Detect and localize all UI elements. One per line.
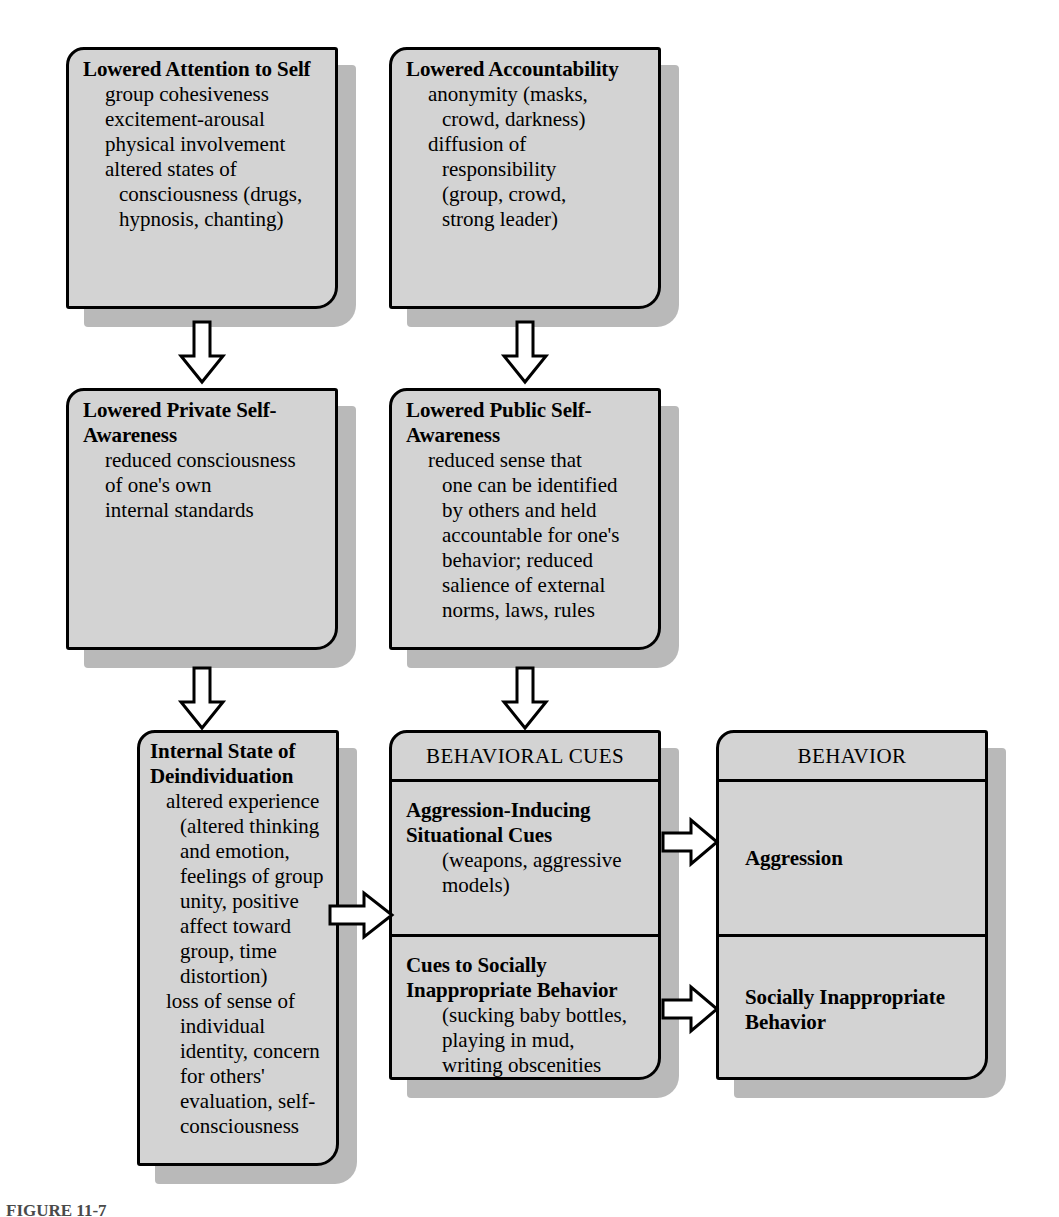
- node-item: behavior; reduced: [428, 548, 648, 573]
- cell-item: models): [428, 873, 648, 898]
- node-item: for others': [166, 1064, 332, 1089]
- node-item: (group, crowd,: [428, 182, 648, 207]
- arrow-accountability-to-public-icon: [503, 322, 547, 384]
- node-title: Lowered Private Self-Awareness: [83, 398, 325, 448]
- arrow-social-cues-to-social-behavior-icon: [663, 986, 719, 1034]
- deindividuation-flowchart: Lowered Attention to Self group cohesive…: [0, 0, 1059, 1217]
- node-face: Lowered Attention to Self group cohesive…: [66, 47, 338, 309]
- arrow-aggression-cues-to-aggression-icon: [663, 819, 719, 867]
- node-face: Lowered Private Self-Awareness reduced c…: [66, 388, 338, 650]
- node-item: accountable for one's: [428, 523, 648, 548]
- node-item: affect toward: [166, 914, 332, 939]
- cell-item: writing obscenities: [428, 1053, 648, 1078]
- node-lowered-private-self-awareness: Lowered Private Self-Awareness reduced c…: [66, 388, 338, 650]
- node-item: norms, laws, rules: [428, 598, 648, 623]
- node-item: one can be identified: [428, 473, 648, 498]
- node-item: reduced consciousness: [83, 448, 325, 473]
- node-internal-state-of-deindividuation: Internal State of Deindividuation altere…: [137, 730, 339, 1166]
- node-item: group cohesiveness: [83, 82, 325, 107]
- node-item: internal standards: [83, 498, 325, 523]
- node-item: strong leader): [428, 207, 648, 232]
- node-lowered-attention-to-self: Lowered Attention to Self group cohesive…: [66, 47, 338, 309]
- node-face: Lowered Accountability anonymity (masks,…: [389, 47, 661, 309]
- cell-title: Socially Inappropriate Behavior: [745, 985, 975, 1035]
- node-item: and emotion,: [166, 839, 332, 864]
- node-title: Lowered Attention to Self: [83, 57, 325, 82]
- behavioral-cues-cell-aggression: Aggression-Inducing Situational Cues (we…: [392, 782, 658, 934]
- node-lowered-public-self-awareness: Lowered Public Self-Awareness reduced se…: [389, 388, 661, 650]
- node-face: BEHAVIOR Aggression Socially Inappropria…: [716, 730, 988, 1080]
- node-lowered-accountability: Lowered Accountability anonymity (masks,…: [389, 47, 661, 309]
- node-item: reduced sense that: [406, 448, 648, 473]
- node-text: Internal State of Deindividuation altere…: [140, 733, 336, 1139]
- behavioral-cues-cell-social: Cues to Socially Inappropriate Behavior …: [392, 934, 658, 1080]
- figure-caption: FIGURE 11-7: [6, 1201, 107, 1217]
- cell-item: (sucking baby bottles,: [428, 1003, 648, 1028]
- node-item: altered states of: [83, 157, 325, 182]
- node-item: hypnosis, chanting): [105, 207, 325, 232]
- node-item: identity, concern: [166, 1039, 332, 1064]
- arrow-public-to-behavioral-cues-icon: [503, 668, 547, 730]
- arrow-internal-state-to-behavioral-cues-icon: [330, 892, 394, 940]
- node-item: excitement-arousal: [83, 107, 325, 132]
- cell-title: Aggression-Inducing Situational Cues: [406, 798, 648, 848]
- node-text: Lowered Public Self-Awareness reduced se…: [392, 391, 658, 623]
- node-face: Internal State of Deindividuation altere…: [137, 730, 339, 1166]
- behavior-banner: BEHAVIOR: [719, 733, 985, 782]
- node-item: group, time: [166, 939, 332, 964]
- node-item: consciousness: [166, 1114, 332, 1139]
- node-behavior: BEHAVIOR Aggression Socially Inappropria…: [716, 730, 988, 1080]
- node-item: physical involvement: [83, 132, 325, 157]
- node-title: Internal State of Deindividuation: [150, 739, 332, 789]
- node-text: Lowered Private Self-Awareness reduced c…: [69, 391, 335, 523]
- cell-item: playing in mud,: [428, 1028, 648, 1053]
- node-item: of one's own: [83, 473, 325, 498]
- node-item: anonymity (masks,: [406, 82, 648, 107]
- arrow-private-to-internal-state-icon: [180, 668, 224, 730]
- node-item: (altered thinking: [166, 814, 332, 839]
- node-title: Lowered Public Self-Awareness: [406, 398, 648, 448]
- node-item: by others and held: [428, 498, 648, 523]
- node-item: individual: [166, 1014, 332, 1039]
- cell-title: Cues to Socially Inappropriate Behavior: [406, 953, 648, 1003]
- node-item: distortion): [166, 964, 332, 989]
- node-item: unity, positive: [166, 889, 332, 914]
- node-face: BEHAVIORAL CUES Aggression-Inducing Situ…: [389, 730, 661, 1080]
- node-title: Lowered Accountability: [406, 57, 648, 82]
- node-text: Lowered Attention to Self group cohesive…: [69, 50, 335, 232]
- node-item: loss of sense of: [150, 989, 332, 1014]
- node-item: crowd, darkness): [428, 107, 648, 132]
- behavior-cell-social: Socially Inappropriate Behavior: [719, 934, 985, 1080]
- node-item: salience of external: [428, 573, 648, 598]
- node-text: Lowered Accountability anonymity (masks,…: [392, 50, 658, 232]
- cell-item: (weapons, aggressive: [428, 848, 648, 873]
- behavioral-cues-banner: BEHAVIORAL CUES: [392, 733, 658, 782]
- cell-title: Aggression: [745, 846, 975, 871]
- arrow-attention-to-private-icon: [180, 322, 224, 384]
- node-item: feelings of group: [166, 864, 332, 889]
- behavior-cell-aggression: Aggression: [719, 782, 985, 934]
- node-behavioral-cues: BEHAVIORAL CUES Aggression-Inducing Situ…: [389, 730, 661, 1080]
- node-item: evaluation, self-: [166, 1089, 332, 1114]
- node-item: diffusion of: [406, 132, 648, 157]
- node-item: responsibility: [428, 157, 648, 182]
- node-face: Lowered Public Self-Awareness reduced se…: [389, 388, 661, 650]
- node-item: consciousness (drugs,: [105, 182, 325, 207]
- node-item: altered experience: [150, 789, 332, 814]
